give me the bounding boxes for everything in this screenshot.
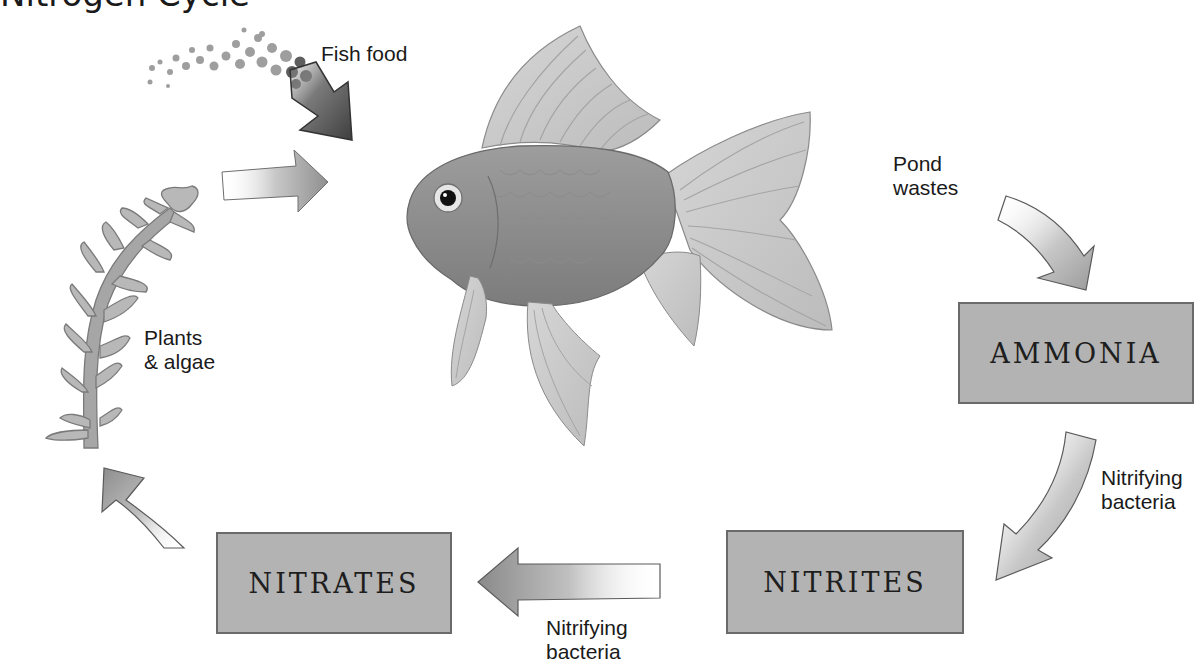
pond-wastes-label: Pond wastes	[893, 152, 958, 200]
nitrogen-cycle-diagram: Nitrogen Cycle	[0, 0, 1202, 664]
nitrites-box: NITRITES	[726, 530, 964, 634]
nitrates-box: NITRATES	[216, 532, 452, 634]
fish-food-label: Fish food	[321, 42, 407, 66]
pond-wastes-arrow	[998, 196, 1094, 290]
ammonia-box: AMMONIA	[958, 302, 1194, 404]
ammonia-to-nitrites-arrow	[996, 432, 1096, 580]
nitrates-to-plants-arrow	[102, 468, 184, 548]
nitrifying-bacteria-label-right: Nitrifying bacteria	[1101, 466, 1183, 514]
aquatic-plant-icon	[46, 186, 198, 448]
plants-algae-label: Plants & algae	[144, 326, 215, 374]
goldfish-icon	[407, 26, 832, 446]
nitrites-to-nitrates-arrow	[478, 548, 660, 616]
plants-to-fish-arrow	[222, 150, 328, 212]
nitrifying-bacteria-label-bottom: Nitrifying bacteria	[546, 616, 628, 664]
